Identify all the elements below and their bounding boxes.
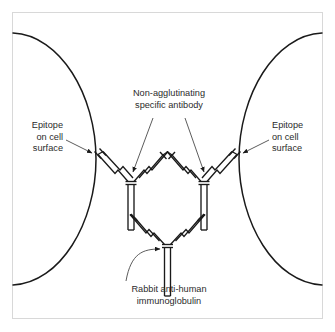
label-rabbit-antiglobulin-line2: immunoglobulin — [137, 296, 201, 306]
label-specific-antibody-line1: Non-agglutinating — [133, 88, 205, 98]
label-specific-antibody-line2: specific antibody — [135, 100, 203, 110]
label-epitope-right-line3: surface — [272, 143, 302, 153]
label-rabbit-antiglobulin-line1: Rabbit anti-human — [131, 284, 206, 294]
label-specific-antibody: Non-agglutinating specific antibody — [133, 88, 205, 110]
label-epitope-left: Epitope on cell surface — [32, 120, 63, 153]
label-epitope-right-line1: Epitope — [272, 120, 303, 130]
label-epitope-left-line1: Epitope — [32, 120, 63, 130]
diagram-canvas: Epitope on cell surface Epitope on cell … — [0, 0, 335, 332]
label-epitope-left-line3: surface — [33, 143, 63, 153]
label-epitope-right: Epitope on cell surface — [272, 120, 303, 153]
label-epitope-left-line2: on cell — [36, 132, 63, 142]
label-epitope-right-line2: on cell — [272, 132, 299, 142]
antiglobulin-test-figure: Epitope on cell surface Epitope on cell … — [0, 0, 335, 332]
label-rabbit-antiglobulin: Rabbit anti-human immunoglobulin — [131, 284, 206, 306]
figure-background — [0, 0, 335, 332]
